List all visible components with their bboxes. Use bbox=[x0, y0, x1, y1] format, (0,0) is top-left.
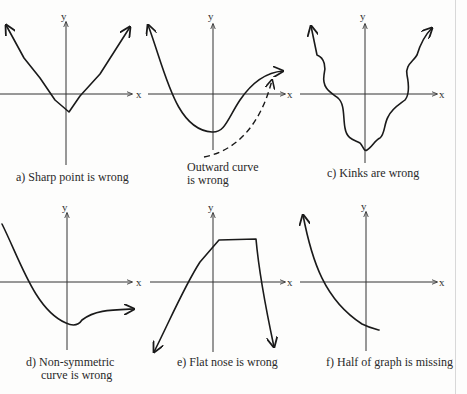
figure: x y x y x y x y bbox=[0, 0, 467, 394]
curve-non-symmetric bbox=[2, 224, 134, 325]
caption-a: a) Sharp point is wrong bbox=[16, 170, 129, 184]
x-axis-label: x bbox=[136, 88, 142, 100]
panel-e: x y bbox=[150, 201, 293, 352]
caption-d-line1: d) Non-symmetric bbox=[26, 355, 114, 369]
caption-b-line1: Outward curve bbox=[187, 160, 259, 174]
curve-kinks bbox=[311, 26, 432, 150]
caption-f: f) Half of graph is missing bbox=[326, 355, 453, 369]
panel-d: x y bbox=[0, 201, 142, 350]
caption-b-line2: is wrong bbox=[187, 173, 229, 187]
y-axis-label: y bbox=[361, 200, 367, 212]
caption-c: c) Kinks are wrong bbox=[327, 166, 419, 180]
x-axis-label: x bbox=[439, 88, 445, 100]
page-edge-divider bbox=[455, 0, 456, 394]
y-axis-label: y bbox=[360, 10, 366, 22]
x-axis-label: x bbox=[136, 276, 142, 288]
y-axis-label: y bbox=[61, 10, 67, 22]
x-axis-label: x bbox=[287, 276, 293, 288]
caption-d-line2: curve is wrong bbox=[41, 368, 112, 382]
curve-flat-nose bbox=[154, 239, 274, 352]
graphs-canvas: x y x y x y x y bbox=[0, 0, 467, 394]
x-axis-label: x bbox=[287, 88, 293, 100]
panel-a: x y bbox=[0, 10, 142, 165]
y-axis-label: y bbox=[208, 10, 214, 22]
y-axis-label: y bbox=[208, 201, 214, 213]
dashed-outward-curve bbox=[204, 80, 272, 157]
panel-c: x y bbox=[300, 10, 445, 163]
y-axis-label: y bbox=[62, 201, 68, 213]
x-axis-label: x bbox=[439, 276, 445, 288]
panel-f: x y bbox=[300, 200, 445, 351]
caption-e: e) Flat nose is wrong bbox=[177, 355, 278, 369]
panel-b: x y bbox=[148, 10, 293, 157]
curve-sharp-point bbox=[6, 25, 130, 112]
curve-outward bbox=[148, 25, 283, 132]
curve-half-missing bbox=[303, 215, 379, 330]
